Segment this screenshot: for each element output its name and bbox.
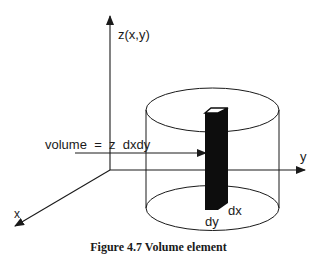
volume-formula-label: volume = z dxdy: [45, 138, 150, 151]
x-axis-label: x: [14, 208, 20, 220]
x-axis: [15, 170, 110, 226]
volume-column: [205, 108, 228, 210]
z-axis-label: z(x,y): [118, 28, 150, 41]
column-side-face: [218, 108, 228, 210]
column-front-face: [205, 113, 218, 210]
y-axis-label: y: [300, 150, 307, 163]
dy-label: dy: [205, 215, 219, 228]
figure-caption: Figure 4.7 Volume element: [0, 240, 317, 255]
dx-label: dx: [228, 204, 242, 217]
